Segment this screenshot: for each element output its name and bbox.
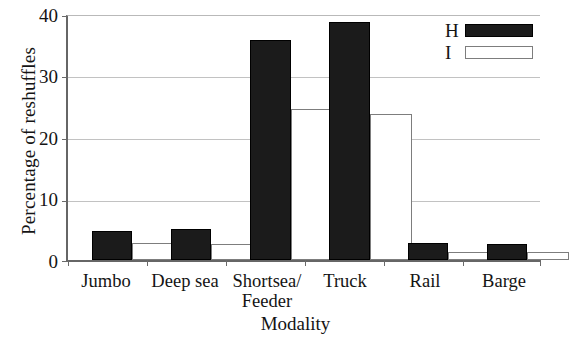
y-tick-label-30: 30 <box>6 67 58 86</box>
bar-i-rail <box>448 252 490 260</box>
x-tick-label-shortsea-feeder-line2: Feeder <box>217 292 317 312</box>
x-separator-5 <box>384 260 385 266</box>
bar-h-barge <box>487 244 527 260</box>
legend-swatch-h <box>465 24 533 37</box>
x-separator-3 <box>226 260 227 266</box>
x-tick-label-truck: Truck <box>300 272 390 292</box>
bar-h-truck <box>329 22 370 260</box>
x-tick-label-rail-line1: Rail <box>382 272 468 292</box>
x-tick-label-barge-line1: Barge <box>459 272 549 292</box>
x-separator-7 <box>540 260 541 266</box>
bar-i-jumbo <box>132 243 174 260</box>
legend-entry-i: I <box>445 42 547 62</box>
x-separator-6 <box>463 260 464 266</box>
chart-legend: H I <box>445 20 547 64</box>
x-separator-4 <box>305 260 306 266</box>
gridline-30 <box>68 77 540 78</box>
x-axis-title: Modality <box>0 313 557 335</box>
bar-h-deep-sea <box>171 229 211 260</box>
y-tick-mark-10 <box>62 201 68 202</box>
bar-i-shortsea-feeder <box>291 109 333 260</box>
legend-swatch-i <box>465 46 533 59</box>
legend-label-h: H <box>445 21 465 40</box>
y-tick-label-20: 20 <box>6 129 58 148</box>
bar-i-barge <box>527 252 569 260</box>
y-tick-label-0: 0 <box>6 252 58 271</box>
y-tick-mark-40 <box>62 16 68 17</box>
x-tick-label-truck-line1: Truck <box>300 272 390 292</box>
y-tick-label-40: 40 <box>6 6 58 25</box>
x-tick-label-barge: Barge <box>459 272 549 292</box>
bar-h-shortsea-feeder <box>250 40 291 260</box>
x-tick-label-rail: Rail <box>382 272 468 292</box>
bar-h-rail <box>408 243 448 260</box>
y-tick-label-10: 10 <box>6 190 58 209</box>
bar-i-deep-sea <box>211 244 253 260</box>
x-separator-1 <box>68 260 69 266</box>
legend-entry-h: H <box>445 20 547 40</box>
bar-h-jumbo <box>92 231 132 260</box>
x-separator-2 <box>147 260 148 266</box>
legend-label-i: I <box>445 43 465 62</box>
y-tick-mark-20 <box>62 139 68 140</box>
y-tick-mark-30 <box>62 77 68 78</box>
bar-i-truck <box>370 114 412 260</box>
plot-area: H I <box>66 15 540 262</box>
